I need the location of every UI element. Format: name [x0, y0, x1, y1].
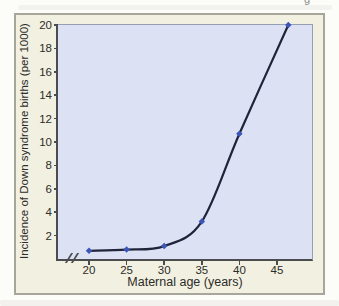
data-point-markers: [86, 22, 292, 254]
scan-artifact-top: [18, 5, 332, 10]
x-tick-mark: [88, 261, 90, 265]
chart-svg: [58, 25, 312, 259]
y-tick-label: 18: [24, 41, 52, 55]
page-background: g Incidence of Down syndrome births (per…: [0, 0, 339, 306]
x-axis-title: Maternal age (years): [58, 275, 312, 290]
y-tick-mark: [54, 235, 58, 237]
page-edge-glyph-text: g: [301, 0, 313, 5]
page-edge-glyph: g: [301, 0, 313, 6]
y-tick-label: 8: [24, 158, 52, 172]
x-tick-mark: [239, 261, 241, 265]
y-tick-label: 10: [24, 135, 52, 149]
y-tick-mark: [54, 141, 58, 143]
y-tick-mark: [54, 94, 58, 96]
y-tick-label: 4: [24, 205, 52, 219]
y-tick-mark: [54, 118, 58, 120]
y-tick-label: 16: [24, 65, 52, 79]
y-tick-mark: [54, 211, 58, 213]
data-point-marker: [236, 131, 243, 138]
y-tick-label: 20: [24, 18, 52, 32]
data-point-marker: [123, 246, 130, 253]
y-tick-mark: [54, 24, 58, 26]
data-point-marker: [285, 22, 292, 29]
y-tick-label: 12: [24, 112, 52, 126]
plot-area: [56, 24, 313, 261]
y-tick-mark: [54, 71, 58, 73]
x-tick-mark: [163, 261, 165, 265]
x-tick-mark: [201, 261, 203, 265]
incidence-curve: [89, 25, 288, 251]
y-tick-label: 14: [24, 88, 52, 102]
y-tick-mark: [54, 165, 58, 167]
data-point-marker: [161, 243, 168, 250]
x-tick-mark: [276, 261, 278, 265]
data-point-marker: [86, 248, 93, 255]
y-tick-mark: [54, 188, 58, 190]
y-tick-label: 6: [24, 182, 52, 196]
x-tick-mark: [126, 261, 128, 265]
figure-frame: Incidence of Down syndrome births (per 1…: [14, 13, 325, 295]
scan-artifact-bottom: [0, 300, 339, 306]
y-tick-mark: [54, 48, 58, 50]
y-tick-label: 2: [24, 229, 52, 243]
